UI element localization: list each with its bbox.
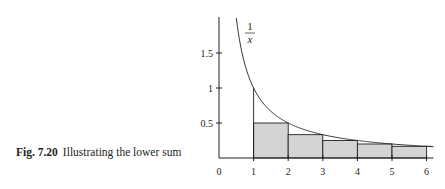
y-tick-label: 1.5 <box>201 48 214 59</box>
function-label-numerator: 1 <box>247 20 253 32</box>
x-tick-label: 4 <box>355 166 360 177</box>
lower-sum-rectangle <box>254 123 289 158</box>
x-tick-label: 3 <box>320 166 325 177</box>
lower-sum-rectangle <box>288 135 323 158</box>
x-tick-label: 5 <box>390 166 395 177</box>
lower-sum-rectangle <box>323 141 358 159</box>
lower-sum-rectangle <box>357 144 392 158</box>
y-tick-label: 1 <box>208 83 213 94</box>
y-tick-label: 0.5 <box>201 118 214 129</box>
function-label-denominator: x <box>247 33 253 45</box>
lower-sum-chart: 0.511.50123456 1 x <box>0 0 445 189</box>
x-tick-label: 2 <box>286 166 291 177</box>
x-tick-label: 1 <box>251 166 256 177</box>
lower-sum-rectangle <box>392 146 427 158</box>
x-tick-label: 0 <box>217 166 222 177</box>
function-label: 1 x <box>245 20 255 45</box>
lower-sum-rectangles <box>254 88 427 158</box>
x-tick-label: 6 <box>424 166 429 177</box>
